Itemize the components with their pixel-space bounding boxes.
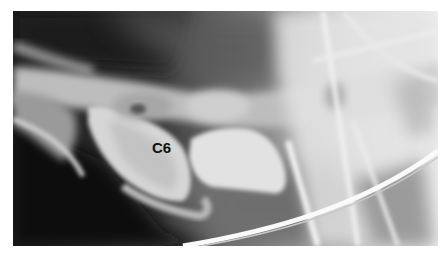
articular-process-shadow [130, 104, 146, 114]
articular-process-2 [186, 90, 250, 122]
radiograph-drawing [13, 11, 438, 246]
radiograph-image [13, 11, 438, 246]
vertebra-label-c6: C6 [152, 140, 171, 155]
